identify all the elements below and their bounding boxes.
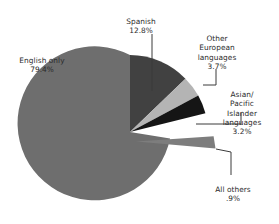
leader-line-all-others bbox=[216, 149, 231, 175]
pie-label-asian-pacific-islander-value: 3.2% bbox=[209, 127, 275, 136]
pie-label-asian-pacific-islander: Asian/ Pacific Islander languages 3.2% bbox=[209, 81, 275, 145]
pie-label-all-others: All others .9% bbox=[198, 176, 268, 213]
pie-label-english-only-value: 79.4% bbox=[4, 65, 80, 74]
pie-label-other-european-name: Other European languages bbox=[198, 34, 237, 61]
pie-label-spanish-value: 12.8% bbox=[110, 26, 172, 35]
pie-label-english-only: English only 79.4% bbox=[4, 47, 80, 84]
pie-chart-page: English only 79.4% Spanish 12.8% Other E… bbox=[0, 0, 279, 224]
pie-label-all-others-value: .9% bbox=[198, 194, 268, 203]
pie-label-spanish: Spanish 12.8% bbox=[110, 8, 172, 45]
pie-label-spanish-name: Spanish bbox=[126, 17, 156, 26]
pie-label-other-european-value: 3.7% bbox=[186, 62, 248, 71]
pie-label-english-only-name: English only bbox=[19, 56, 64, 65]
pie-label-other-european: Other European languages 3.7% bbox=[186, 25, 248, 80]
pie-label-asian-pacific-islander-name: Asian/ Pacific Islander languages bbox=[223, 90, 262, 127]
pie-label-all-others-name: All others bbox=[215, 185, 251, 194]
